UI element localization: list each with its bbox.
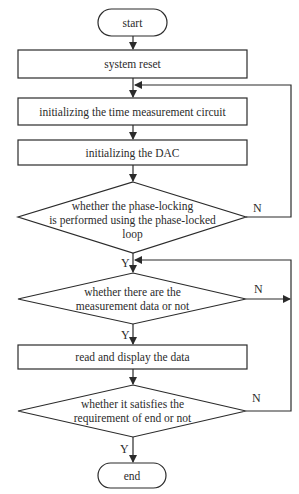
decision-end-no-label: N	[252, 391, 261, 405]
step-init-time-label: initializing the time measurement circui…	[39, 106, 226, 119]
step-init-dac: initializing the DAC	[18, 140, 247, 165]
decision-end-yes-label: Y	[120, 442, 129, 456]
end-terminal: end	[98, 463, 166, 488]
step-init-time-measurement: initializing the time measurement circui…	[18, 98, 247, 125]
decision-measurement-data: whether there are the measurement data o…	[18, 273, 246, 324]
start-label: start	[123, 17, 144, 29]
step-system-reset: system reset	[18, 50, 247, 78]
decision-pll-line-1: whether the phase-locking	[72, 200, 194, 213]
decision-data-line-2: measurement data or not	[76, 300, 190, 312]
decision-end-line-2: requirement of end or not	[74, 412, 192, 425]
step-read-display: read and display the data	[18, 345, 247, 369]
step-system-reset-label: system reset	[104, 58, 161, 71]
decision-data-line-1: whether there are the	[84, 286, 181, 298]
end-label: end	[124, 470, 141, 482]
decision-pll-line-3: loop	[122, 228, 143, 241]
decision-pll-yes-label: Y	[121, 256, 130, 270]
decision-data-yes-label: Y	[121, 328, 130, 342]
decision-pll-no-label: N	[253, 201, 262, 215]
decision-phase-locking: whether the phase-locking is performed u…	[18, 182, 246, 253]
decision-end-line-1: whether it satisfies the	[81, 398, 184, 410]
decision-end-requirement: whether it satisfies the requirement of …	[18, 385, 246, 437]
start-terminal: start	[98, 9, 167, 36]
step-init-dac-label: initializing the DAC	[86, 147, 180, 160]
step-read-display-label: read and display the data	[75, 351, 189, 364]
decision-data-no-label: N	[254, 282, 263, 296]
decision-pll-line-2: is performed using the phase-locked	[49, 214, 216, 227]
flowchart: start system reset initializing the time…	[0, 0, 299, 494]
